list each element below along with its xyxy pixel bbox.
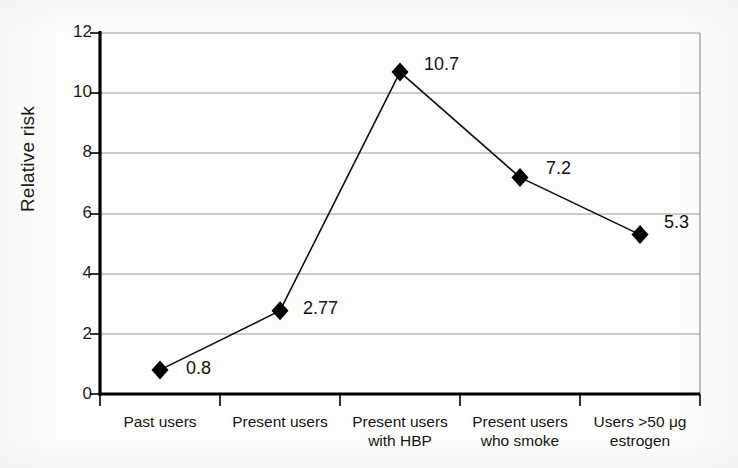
x-category-3: Present users who smoke [460, 412, 580, 450]
chart-figure: Relative risk 12 10 8 6 4 2 0 [0, 0, 738, 468]
x-category-1: Present users [220, 412, 340, 431]
data-point-2 [392, 63, 409, 82]
x-category-2: Present users with HBP [340, 412, 460, 450]
data-line [160, 72, 640, 370]
x-category-3-line-1: who smoke [460, 431, 580, 450]
data-label-2: 10.7 [424, 54, 459, 75]
x-category-4-line-0: Users >50 μg [580, 412, 700, 431]
data-label-4: 5.3 [664, 212, 689, 233]
data-point-3 [512, 168, 529, 187]
x-category-0: Past users [100, 412, 220, 431]
y-axis [90, 31, 100, 396]
data-label-1: 2.77 [303, 298, 338, 319]
x-axis [100, 394, 700, 406]
data-label-3: 7.2 [546, 158, 571, 179]
data-label-0: 0.8 [186, 358, 211, 379]
x-category-0-line-0: Past users [100, 412, 220, 431]
data-point-4 [632, 225, 649, 244]
x-category-2-line-0: Present users [340, 412, 460, 431]
data-point-0 [152, 360, 169, 379]
data-markers [152, 63, 649, 380]
x-category-1-line-0: Present users [220, 412, 340, 431]
plot-area [0, 0, 738, 468]
data-point-1 [272, 301, 289, 320]
x-category-4: Users >50 μg estrogen [580, 412, 700, 450]
x-category-4-line-1: estrogen [580, 431, 700, 450]
x-category-3-line-0: Present users [460, 412, 580, 431]
x-category-2-line-1: with HBP [340, 431, 460, 450]
